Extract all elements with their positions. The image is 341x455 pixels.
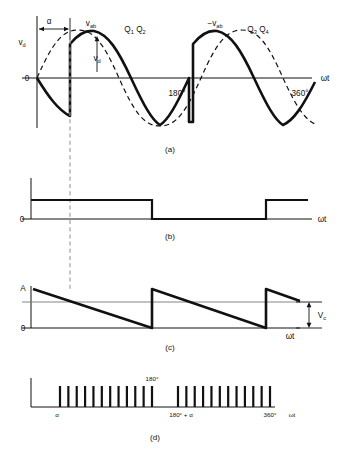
panel-d-tick-180-plus-alpha: 180° + α [169,411,193,418]
conduction-label-q3q4: Q3 Q4 [247,25,268,35]
panel-d-tick-180: 180° [146,375,159,382]
control-voltage-label: Vc [318,311,326,321]
figure-waveform-set: α vd vd 0 vab −vab Q1 Q2 Q3 Q4 180° 360°… [0,0,341,455]
panel-a-x-axis-label: ωt [321,74,330,83]
alpha-label: α [47,17,52,26]
panel-d: α 180° 180° + α 360° ωt (d) [31,375,296,442]
vd-arrow-annotation: vd [93,36,100,72]
panel-a-tick-180: 180° [169,89,186,98]
pulse-train-group-2 [178,386,270,407]
panel-c-x-axis-label: ωt [286,332,295,341]
panel-c-amplitude-label: A [20,284,26,293]
panel-c-origin-label: 0 [21,324,26,333]
panel-b: 0 ωt (b) [20,178,327,241]
panel-a-y-axis-label: vd [18,38,25,48]
panel-a-origin-label: 0 [25,74,30,83]
panel-d-x-axis-label: ωt [289,411,296,418]
sawtooth-ramp [33,289,300,328]
panel-b-caption: (b) [165,232,175,241]
pulse-train-group-1 [60,386,152,407]
panel-d-caption: (d) [150,433,160,442]
neg-vab-label: −vab [207,19,222,29]
vab-label: vab [86,19,96,29]
panel-b-x-axis-label: ωt [318,215,327,224]
panel-d-tick-360: 360° [264,411,277,418]
panel-a-caption: (a) [165,145,175,154]
panel-d-alpha-label: α [55,411,59,418]
vc-bracket-annotation: Vc [296,302,326,328]
panel-c-caption: (c) [165,343,175,352]
gate-logic-waveform [31,200,308,219]
panel-a: α vd vd 0 vab −vab Q1 Q2 Q3 Q4 180° 360°… [18,16,330,154]
vd-arrow-label: vd [93,54,100,64]
panel-a-tick-360: 360° [292,89,309,98]
conduction-label-q1q2: Q1 Q2 [124,25,145,35]
alpha-span-annotation: α [39,17,70,40]
panel-b-origin-label: 0 [20,215,25,224]
panel-c: Vc A 0 ωt (c) [20,284,326,352]
